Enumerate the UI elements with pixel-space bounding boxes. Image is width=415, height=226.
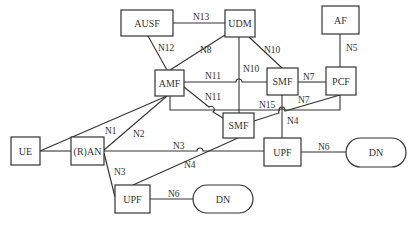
label-n3-diagonal: N3 xyxy=(114,167,126,177)
label-n4-lower: N4 xyxy=(184,160,196,170)
node-label: AF xyxy=(334,15,347,26)
node-label: UPF xyxy=(273,147,292,158)
label-n8: N8 xyxy=(200,45,212,55)
node-smf-lower: SMF xyxy=(223,113,254,138)
node-label: UPF xyxy=(123,194,142,205)
label-n2: N2 xyxy=(133,129,145,139)
edge-n12 xyxy=(148,36,167,70)
label-n15: N15 xyxy=(259,100,276,110)
node-label: SMF xyxy=(228,120,248,131)
node-ausf: AUSF xyxy=(121,10,173,36)
label-n10-diagonal: N10 xyxy=(264,45,281,55)
edge-n8 xyxy=(170,35,225,70)
node-ran: (R)AN xyxy=(71,137,104,165)
network-architecture-diagram: N13 N12 N8 N10 N10 N5 N11 N11 N7 N7 N15 … xyxy=(0,0,415,226)
edge-n2 xyxy=(104,96,167,150)
node-ue: UE xyxy=(11,137,40,165)
label-n7-lower: N7 xyxy=(298,95,310,105)
node-pcf: PCF xyxy=(326,67,356,95)
label-n11-lower: N11 xyxy=(205,92,221,102)
label-n3-horizontal: N3 xyxy=(173,141,185,151)
label-n13: N13 xyxy=(193,12,210,22)
label-n7-upper: N7 xyxy=(303,72,315,82)
node-smf-upper: SMF xyxy=(267,68,298,95)
node-label: SMF xyxy=(272,76,292,87)
node-label: PCF xyxy=(332,76,350,87)
node-label: AUSF xyxy=(134,18,160,29)
node-upf-lower: UPF xyxy=(115,185,150,213)
node-label: DN xyxy=(216,194,230,205)
edge-n11-upper xyxy=(184,79,267,82)
label-n11-upper: N11 xyxy=(205,71,221,81)
node-upf-upper: UPF xyxy=(264,138,301,166)
node-amf: AMF xyxy=(155,70,184,96)
edges xyxy=(40,23,346,199)
node-udm: UDM xyxy=(225,10,255,37)
node-label: (R)AN xyxy=(74,146,102,158)
node-af: AF xyxy=(322,6,359,34)
node-dn-upper: DN xyxy=(346,138,406,167)
node-dn-lower: DN xyxy=(193,185,253,213)
label-n12: N12 xyxy=(158,43,175,53)
edge-labels: N13 N12 N8 N10 N10 N5 N11 N11 N7 N7 N15 … xyxy=(105,12,358,199)
label-n1: N1 xyxy=(105,126,117,136)
label-n6-upper: N6 xyxy=(318,142,330,152)
node-label: UDM xyxy=(228,18,251,29)
label-n5: N5 xyxy=(346,43,358,53)
label-n10-vertical: N10 xyxy=(243,64,260,74)
node-label: DN xyxy=(369,147,383,158)
label-n4-upper: N4 xyxy=(287,116,299,126)
node-label: AMF xyxy=(159,78,181,89)
node-label: UE xyxy=(19,146,32,157)
label-n6-lower: N6 xyxy=(168,189,180,199)
